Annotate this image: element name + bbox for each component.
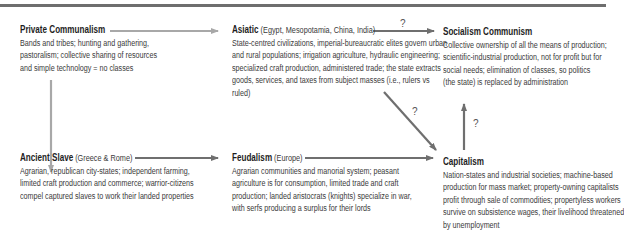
node-subtitle: (Egypt, Mesopotamia, China, India) xyxy=(261,24,376,35)
node-desc-line: social needs; elimination of classes, so… xyxy=(443,64,607,77)
node-subtitle: (Greece & Rome) xyxy=(75,152,132,163)
node-subtitle: (Europe) xyxy=(274,152,302,163)
node-desc-line: production for mass market; property-own… xyxy=(443,181,624,194)
node-desc-line: pastoralism; collective sharing of resou… xyxy=(20,49,157,62)
node-desc-line: and simple technology = no classes xyxy=(20,62,157,75)
node-desc-line: by unemployment xyxy=(443,219,624,232)
node-desc-line: Nation-states and industrial societies; … xyxy=(443,169,624,182)
node-desc-line: specialized craft production, administer… xyxy=(232,62,447,75)
node-asiatic: Asiatic (Egypt, Mesopotamia, China, Indi… xyxy=(232,24,447,99)
node-desc-line: agriculture is for consumption, limited … xyxy=(232,177,412,190)
node-desc-line: and rural populations; irrigation agricu… xyxy=(232,49,447,62)
node-desc-line: scientific-industrial production, not fo… xyxy=(443,51,607,64)
node-desc-line: Bands and tribes; hunting and gathering, xyxy=(20,37,157,50)
node-desc-line: profit through sale of commodities; prop… xyxy=(443,194,624,207)
node-desc-line: Collective ownership of all the means of… xyxy=(443,39,607,52)
node-title: Asiatic xyxy=(232,24,259,35)
node-title: Socialism Communism xyxy=(443,26,532,37)
node-desc-line: production; landed aristocrats (knights)… xyxy=(232,190,412,203)
node-socialism-communism: Socialism Communism Collective ownership… xyxy=(443,26,607,89)
node-desc-line: compel captured slaves to work their lan… xyxy=(20,190,194,203)
node-title: Feudalism xyxy=(232,152,272,163)
node-ancient-slave: Ancient Slave (Greece & Rome) Agrarian, … xyxy=(20,152,194,202)
node-desc-line: Agrarian communities and manorial system… xyxy=(232,165,412,178)
node-desc-line: with serfs producing a surplus for their… xyxy=(232,202,412,215)
arrow-asiatic-to-capitalism xyxy=(384,92,436,150)
node-private-communalism: Private Communalism Bands and tribes; hu… xyxy=(20,24,157,74)
node-feudalism: Feudalism (Europe) Agrarian communities … xyxy=(232,152,412,215)
node-title: Private Communalism xyxy=(20,24,105,35)
node-desc-line: (the state) is replaced by administratio… xyxy=(443,76,607,89)
question-mark-capitalism-socialism: ? xyxy=(473,118,479,129)
node-desc-line: State-centred civilizations, imperial-bu… xyxy=(232,37,447,50)
node-capitalism: Capitalism Nation-states and industrial … xyxy=(443,156,624,231)
question-mark-asiatic-capitalism: ? xyxy=(412,106,418,117)
node-desc-line: goods, services, and taxes from subject … xyxy=(232,74,447,87)
node-desc-line: limited craft production and commerce; w… xyxy=(20,177,194,190)
node-title: Capitalism xyxy=(443,156,484,167)
node-desc-line: Agrarian, republican city-states; indepe… xyxy=(20,165,194,178)
node-desc-line: ruled) xyxy=(232,87,447,100)
node-title: Ancient Slave xyxy=(20,152,73,163)
node-desc-line: survive on subsistence wages, their live… xyxy=(443,206,624,219)
